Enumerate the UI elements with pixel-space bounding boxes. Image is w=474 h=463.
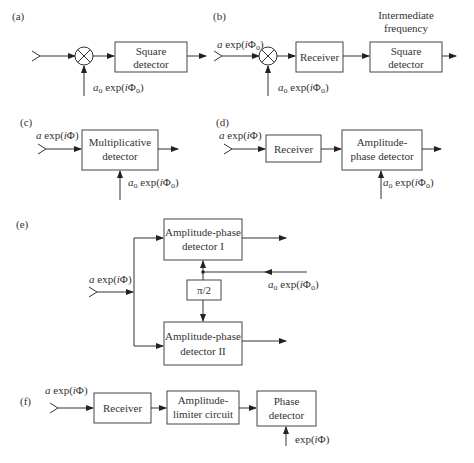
if-label: Intermediate <box>378 9 434 21</box>
box-text: phase detector <box>350 150 414 162</box>
box-text: detector I <box>182 240 224 252</box>
panel-a-label: (a) <box>12 10 25 23</box>
input-signal-label: a exp(iΦ) <box>219 129 262 142</box>
panel-f: (f) a exp(iΦ) Receiver Amplitude- limite… <box>20 384 330 446</box>
if-label: frequency <box>384 22 428 34</box>
amplitude-phase-detector-ii-box <box>164 322 242 365</box>
input-signal-label: a exp(iΦ) <box>89 273 132 286</box>
panel-e-label: (e) <box>16 218 29 231</box>
mixer-icon <box>75 47 93 65</box>
box-text: Receiver <box>300 51 339 63</box>
reference-signal-label: ao exp(iΦo) <box>278 81 329 95</box>
box-text: Receiver <box>103 402 142 414</box>
panel-b-label: (b) <box>213 10 226 23</box>
antenna-icon <box>38 144 46 154</box>
antenna-icon <box>50 403 58 413</box>
detector-schemes-diagram: (a) Square detector ao exp(iΦo) (b) a ex… <box>0 0 474 463</box>
input-signal-label: a exp(iΦ) <box>36 129 79 142</box>
panel-d-label: (d) <box>216 116 229 129</box>
box-text: Square <box>391 45 422 57</box>
box-text: Receiver <box>274 143 313 155</box>
box-text: limiter circuit <box>173 408 233 420</box>
panel-f-label: (f) <box>20 395 31 408</box>
box-text: detector <box>269 409 305 421</box>
panel-b: (b) a exp(iΦo) Receiver Intermediate fre… <box>213 9 456 96</box>
panel-c: (c) a exp(iΦ) Multiplicative detector ao… <box>20 116 179 200</box>
panel-c-label: (c) <box>20 116 33 129</box>
input-signal-label: a exp(iΦo) <box>217 38 264 52</box>
box-text: Phase <box>274 395 300 407</box>
antenna-icon <box>214 51 222 61</box>
box-text: Amplitude-phase <box>165 226 241 238</box>
reference-signal-label: ao exp(iΦo) <box>93 81 144 95</box>
box-text: π/2 <box>197 284 211 296</box>
mixer-icon <box>259 47 277 65</box>
reference-signal-label: ao exp(iΦo) <box>268 278 319 292</box>
panel-e: (e) a exp(iΦ) Amplitude-phase detector I… <box>16 218 319 365</box>
input-signal-label: a exp(iΦ) <box>45 384 88 397</box>
box-text: Amplitude- <box>178 394 229 406</box>
box-text: Amplitude- <box>357 136 408 148</box>
antenna-icon <box>32 51 40 61</box>
box-text: Amplitude-phase <box>165 330 241 342</box>
box-text: detector <box>388 58 424 70</box>
box-text: detector II <box>180 345 226 357</box>
reference-signal-label: exp(iΦ) <box>295 433 330 446</box>
panel-d: (d) a exp(iΦ) Receiver Amplitude- phase … <box>216 116 441 199</box>
box-text: Multiplicative <box>89 136 151 148</box>
box-text: detector <box>133 58 169 70</box>
box-text: Square <box>136 45 167 57</box>
reference-signal-label: ao exp(iΦo) <box>383 176 434 190</box>
antenna-icon <box>89 287 97 297</box>
box-text: detector <box>102 150 138 162</box>
antenna-icon <box>224 144 232 154</box>
reference-signal-label: ao exp(iΦo) <box>128 176 179 190</box>
panel-a: (a) Square detector ao exp(iΦo) <box>12 10 206 96</box>
